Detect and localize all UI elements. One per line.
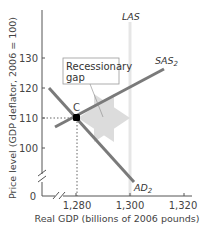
recessionary-gap-line1: Recessionary	[66, 61, 132, 72]
point-c-marker	[73, 114, 80, 121]
x-tick-1280: 1,280	[63, 200, 92, 211]
sas2-label: SAS2	[155, 55, 179, 68]
las-label: LAS	[122, 11, 140, 22]
x-tick-1320: 1,320	[169, 200, 198, 211]
chart: LAS 130 120 110 100 0 1,280 1,300 1,320 …	[0, 0, 203, 234]
y-axis-title: Price level (GDP deflator, 2006 = 100)	[7, 17, 18, 199]
y-tick-120: 120	[19, 83, 38, 94]
origin-label: 0	[30, 191, 36, 202]
recessionary-gap-line2: gap	[66, 72, 85, 83]
x-axis-title: Real GDP (billions of 2006 pounds)	[35, 213, 200, 224]
x-tick-1300: 1,300	[116, 200, 145, 211]
gap-pointer-line	[90, 84, 103, 117]
y-tick-110: 110	[19, 113, 38, 124]
point-c-label: C	[73, 102, 80, 113]
ad2-curve	[49, 88, 134, 182]
y-tick-100: 100	[19, 143, 38, 154]
y-tick-130: 130	[19, 53, 38, 64]
ad2-label: AD2	[133, 182, 153, 195]
